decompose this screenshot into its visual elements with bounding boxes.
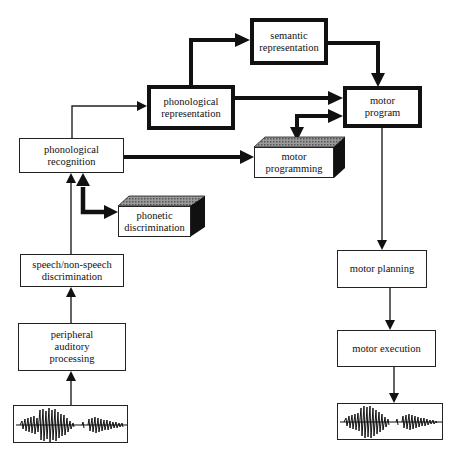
block-faces bbox=[0, 0, 457, 456]
node-label: motor program bbox=[365, 95, 401, 119]
node-phonological-representation: phonological representation bbox=[147, 85, 235, 130]
node-label: peripheral auditory processing bbox=[50, 329, 95, 365]
node-peripheral-auditory-processing: peripheral auditory processing bbox=[18, 323, 126, 371]
waveform-icon bbox=[14, 406, 129, 444]
node-speech-non-speech-discrimination: speech/non-speech discrimination bbox=[20, 254, 124, 287]
node-motor-programming: motor programming bbox=[254, 147, 334, 178]
node-label: speech/non-speech discrimination bbox=[32, 259, 111, 283]
node-label: phonological recognition bbox=[44, 144, 99, 168]
speech-processing-diagram: semantic representation phonological rep… bbox=[0, 0, 457, 456]
node-phonetic-discrimination: phonetic discrimination bbox=[118, 206, 191, 237]
node-label: semantic representation bbox=[259, 30, 318, 54]
motor-programming-top-face bbox=[254, 137, 345, 147]
node-semantic-representation: semantic representation bbox=[250, 18, 328, 65]
input-speech-waveform bbox=[13, 405, 128, 443]
waveform-icon bbox=[338, 404, 444, 441]
node-label: motor planning bbox=[350, 263, 414, 275]
node-phonological-recognition: phonological recognition bbox=[19, 138, 124, 173]
node-motor-planning: motor planning bbox=[337, 250, 427, 288]
output-speech-waveform bbox=[337, 403, 443, 440]
node-label: motor programming bbox=[265, 151, 322, 175]
phonetic-disc-top-face bbox=[118, 196, 205, 206]
node-label: phonetic discrimination bbox=[124, 210, 185, 234]
node-label: phonological representation bbox=[161, 96, 220, 120]
node-motor-program: motor program bbox=[343, 86, 422, 128]
node-motor-execution: motor execution bbox=[337, 330, 436, 367]
node-label: motor execution bbox=[352, 343, 421, 355]
